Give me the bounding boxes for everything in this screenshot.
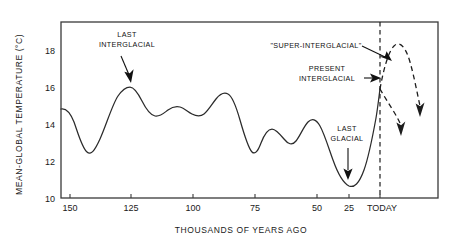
y-tick-16: 16 <box>45 83 55 93</box>
y-tick-10: 10 <box>45 194 55 204</box>
x-tick-25: 25 <box>344 203 354 213</box>
return-to-glacial-projection <box>380 89 401 125</box>
x-axis-title: THOUSANDS OF YEARS AGO <box>175 225 308 235</box>
temperature-history-chart: 18 16 14 12 10 150 125 100 75 50 25 TODA… <box>0 0 463 245</box>
annotation-super-interglacial-leader <box>362 46 385 57</box>
return-to-glacial-arrowhead <box>396 122 405 137</box>
y-tick-14: 14 <box>45 120 55 130</box>
x-tick-today: TODAY <box>367 203 397 213</box>
x-tick-150: 150 <box>62 203 77 213</box>
annotation-last-glacial-arrowhead <box>343 169 352 180</box>
y-tick-12: 12 <box>45 157 55 167</box>
annotation-last-glacial-line2: GLACIAL <box>331 134 364 143</box>
y-axis-title: MEAN-GLOBAL TEMPERATURE (°C) <box>14 34 24 195</box>
x-tick-100: 100 <box>185 203 200 213</box>
annotation-last-glacial-line1: LAST <box>337 124 357 133</box>
y-tick-18: 18 <box>45 46 55 56</box>
annotation-last-interglacial-arrowhead <box>124 69 133 83</box>
x-tick-50: 50 <box>312 203 322 213</box>
annotation-super-interglacial-text: "SUPER-INTERGLACIAL" <box>270 41 361 50</box>
x-tick-75: 75 <box>250 203 260 213</box>
annotation-present-interglacial-line1: PRESENT <box>309 64 346 73</box>
x-tick-125: 125 <box>123 203 138 213</box>
annotation-last-interglacial-line2: INTERGLACIAL <box>99 40 155 49</box>
annotation-last-interglacial-line1: LAST <box>117 30 137 39</box>
annotation-present-interglacial-line2: INTERGLACIAL <box>299 74 355 83</box>
